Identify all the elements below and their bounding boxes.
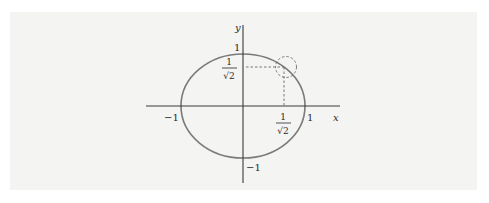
x-tick-neg-one: −1 xyxy=(164,112,179,123)
y-frac-denominator: √2 xyxy=(223,71,234,81)
y-tick-one: 1 xyxy=(234,42,240,53)
y-frac-numerator: 1 xyxy=(226,57,232,67)
unit-circle-diagram: y x 1 1 −1 −1 1 √2 1 √2 xyxy=(0,0,489,203)
x-frac-denominator: √2 xyxy=(277,126,288,136)
x-frac-numerator: 1 xyxy=(280,112,286,122)
x-tick-one: 1 xyxy=(307,112,313,123)
y-tick-neg-one: −1 xyxy=(246,162,261,173)
y-axis-label: y xyxy=(234,22,241,33)
x-axis-label: x xyxy=(333,112,339,123)
